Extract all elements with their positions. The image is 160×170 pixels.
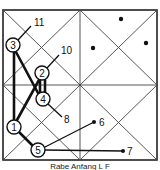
- pointer-dot-icon: [92, 120, 96, 124]
- move-label: 6: [99, 117, 105, 128]
- pointer-line: [47, 55, 59, 68]
- pointer-line: [45, 150, 123, 151]
- node-number: 4: [40, 94, 46, 105]
- pointer-line: [18, 26, 31, 40]
- node-number: 1: [11, 122, 17, 133]
- move-label: 7: [127, 146, 133, 157]
- point-marker-icon: [119, 17, 123, 21]
- move-label: 10: [61, 45, 73, 56]
- move-label: 11: [34, 17, 45, 28]
- move-label: 8: [64, 114, 70, 125]
- node-number: 5: [35, 145, 41, 156]
- diagram-canvas: 1110867 12345: [0, 0, 160, 170]
- pointer-line: [48, 104, 62, 117]
- node-5: 5: [31, 143, 45, 157]
- node-2: 2: [35, 66, 49, 80]
- node-number: 3: [10, 40, 16, 51]
- node-1: 1: [7, 120, 21, 134]
- point-marker-icon: [144, 41, 148, 45]
- pointer-dot-icon: [121, 149, 125, 153]
- node-number: 2: [39, 68, 45, 79]
- node-3: 3: [6, 38, 20, 52]
- node-4: 4: [36, 92, 50, 106]
- pointer-line: [45, 122, 94, 147]
- figure-caption: Rabe Anfang L F: [0, 163, 160, 170]
- point-marker-icon: [91, 46, 95, 50]
- free-points: [91, 17, 148, 50]
